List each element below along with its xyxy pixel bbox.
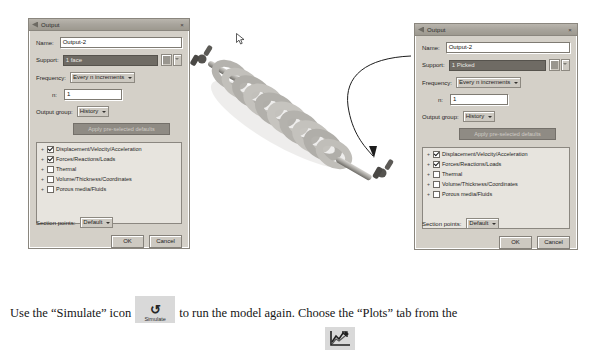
caret-glyph xyxy=(563,63,567,65)
close-icon[interactable]: × xyxy=(566,26,574,34)
support-pick-buttons xyxy=(549,59,570,71)
expand-icon[interactable]: + xyxy=(40,177,45,182)
output-group-select[interactable]: History xyxy=(77,106,110,117)
expand-icon[interactable]: + xyxy=(426,152,431,157)
dialog-title: Output xyxy=(41,22,175,28)
simulate-icon-label: Simulate xyxy=(144,316,165,323)
annotation-arrow xyxy=(348,56,411,158)
tree-item-label: Displacement/Velocity/Acceleration xyxy=(56,147,142,153)
checkbox[interactable] xyxy=(433,171,440,178)
dialog-body: Name: Output-2 Support: 1 face Frequency… xyxy=(29,31,189,254)
expand-icon[interactable]: + xyxy=(426,182,431,187)
n-input[interactable]: 1 xyxy=(64,89,122,100)
select-entities-icon[interactable] xyxy=(161,54,172,66)
output-group-row: Output group: History xyxy=(36,106,182,117)
tree-item-label: Forces/Reactions/Loads xyxy=(56,157,115,163)
name-input[interactable]: Output-2 xyxy=(60,37,182,48)
name-label: Name: xyxy=(422,45,440,51)
expand-icon[interactable]: + xyxy=(426,162,431,167)
chevron-down-icon xyxy=(102,111,106,113)
select-entities-icon[interactable] xyxy=(549,59,560,71)
caret-glyph xyxy=(175,58,179,60)
expand-icon[interactable]: + xyxy=(426,172,431,177)
chevron-down-icon xyxy=(128,77,132,79)
support-label: Support: xyxy=(422,62,445,68)
expand-icon[interactable]: + xyxy=(40,187,45,192)
support-label: Support: xyxy=(36,57,59,63)
checkbox[interactable] xyxy=(433,161,440,168)
dialog-titlebar[interactable]: Output × xyxy=(29,19,189,31)
n-input[interactable]: 1 xyxy=(450,94,508,105)
frequency-label: Frequency: xyxy=(36,75,66,81)
checkbox[interactable] xyxy=(47,186,54,193)
name-row: Name: Output-2 xyxy=(36,37,182,48)
tree-item[interactable]: + Porous media/Fluids xyxy=(40,186,178,193)
support-input[interactable]: 1 face xyxy=(63,55,158,66)
tree-item[interactable]: + Thermal xyxy=(40,166,178,173)
coil-spring-model[interactable] xyxy=(186,28,412,188)
plots-chart-icon[interactable] xyxy=(325,327,355,350)
checkbox[interactable] xyxy=(433,191,440,198)
chevron-down-icon xyxy=(488,116,492,118)
output-variables-tree[interactable]: + Displacement/Velocity/Acceleration + F… xyxy=(422,147,570,229)
tree-item-label: Thermal xyxy=(56,167,76,173)
expand-icon[interactable]: + xyxy=(40,147,45,152)
apply-preselected-defaults-button[interactable]: Apply pre-selected defaults xyxy=(73,123,170,135)
checkbox[interactable] xyxy=(433,181,440,188)
tree-item[interactable]: + Forces/Reactions/Loads xyxy=(40,156,178,163)
checkbox[interactable] xyxy=(47,146,54,153)
tree-item[interactable]: + Volume/Thickness/Coordinates xyxy=(40,176,178,183)
caption-part-1: Use the “Simulate” icon xyxy=(10,306,131,321)
tree-item[interactable]: + Forces/Reactions/Loads xyxy=(426,161,566,168)
ok-button[interactable]: OK xyxy=(111,235,144,248)
output-group-select[interactable]: History xyxy=(463,111,496,122)
simulate-icon[interactable]: ↺ Simulate xyxy=(135,296,175,323)
close-icon[interactable]: × xyxy=(178,21,186,29)
dialog-menu-icon xyxy=(418,27,424,33)
expand-icon[interactable]: + xyxy=(426,192,431,197)
checkbox[interactable] xyxy=(47,166,54,173)
checkbox[interactable] xyxy=(47,176,54,183)
chevron-down-icon[interactable] xyxy=(173,54,182,66)
expand-icon[interactable]: + xyxy=(40,167,45,172)
apply-preselected-defaults-button[interactable]: Apply pre-selected defaults xyxy=(459,128,556,140)
frequency-select[interactable]: Every n increments xyxy=(456,77,521,88)
dialog-menu-icon xyxy=(32,22,38,28)
tree-item-label: Displacement/Velocity/Acceleration xyxy=(442,152,528,158)
output-group-label: Output group: xyxy=(422,114,459,120)
tree-item[interactable]: + Thermal xyxy=(426,171,566,178)
cancel-button[interactable]: Cancel xyxy=(149,235,182,248)
tree-item[interactable]: + Displacement/Velocity/Acceleration xyxy=(426,151,566,158)
dialog-button-row: OK Cancel xyxy=(499,236,570,249)
output-group-row: Output group: History xyxy=(422,111,570,122)
tree-item[interactable]: + Displacement/Velocity/Acceleration xyxy=(40,146,178,153)
cancel-button[interactable]: Cancel xyxy=(537,236,570,249)
expand-icon[interactable]: + xyxy=(40,157,45,162)
tree-item[interactable]: + Volume/Thickness/Coordinates xyxy=(426,181,566,188)
dialog-titlebar[interactable]: Output × xyxy=(415,24,577,36)
section-points-value: Default xyxy=(83,218,102,227)
tree-item-label: Volume/Thickness/Coordinates xyxy=(56,177,132,183)
n-row: n: 1 xyxy=(438,94,570,105)
output-dialog-right[interactable]: Output × Name: Output-2 Support: 1 Picke… xyxy=(414,23,578,250)
output-group-label: Output group: xyxy=(36,109,73,115)
section-points-value: Default xyxy=(469,219,488,228)
section-points-select[interactable]: Default xyxy=(466,218,499,229)
tree-item-label: Forces/Reactions/Loads xyxy=(442,162,501,168)
frequency-select[interactable]: Every n increments xyxy=(70,72,135,83)
name-input[interactable]: Output-2 xyxy=(446,42,570,53)
support-row: Support: 1 Picked xyxy=(422,59,570,71)
section-points-select[interactable]: Default xyxy=(80,217,113,228)
checkbox[interactable] xyxy=(433,151,440,158)
caption-part-2: to run the model again. Choose the “Plot… xyxy=(179,306,457,321)
tree-item[interactable]: + Porous media/Fluids xyxy=(426,191,566,198)
output-variables-tree[interactable]: + Displacement/Velocity/Acceleration + F… xyxy=(36,142,182,224)
output-dialog-left[interactable]: Output × Name: Output-2 Support: 1 face … xyxy=(28,18,190,249)
ok-button[interactable]: OK xyxy=(499,236,532,249)
frequency-row: Frequency: Every n increments xyxy=(36,72,182,83)
chevron-down-icon xyxy=(106,222,110,224)
checkbox[interactable] xyxy=(47,156,54,163)
cursor-pick-glyph xyxy=(163,56,170,64)
chevron-down-icon[interactable] xyxy=(561,59,570,71)
support-input[interactable]: 1 Picked xyxy=(449,60,546,71)
